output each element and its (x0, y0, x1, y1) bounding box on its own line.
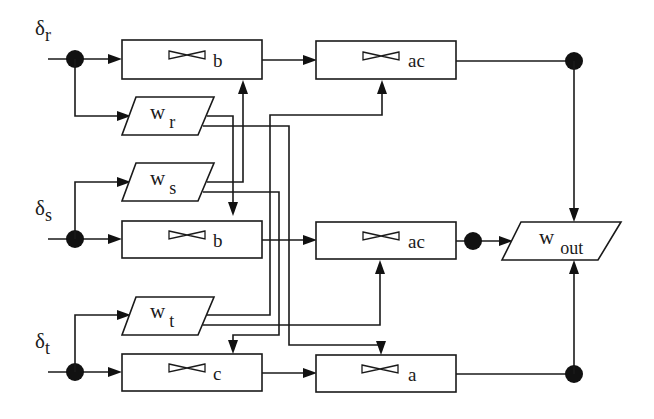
filter-box-row3-c (122, 354, 262, 391)
arrow-icon (375, 260, 385, 274)
arrow-icon (569, 208, 579, 222)
arrow-icon (238, 80, 248, 94)
input-label-s: δs (35, 196, 52, 225)
filter-box-row2-b (122, 221, 262, 258)
weight-box-ws (122, 163, 214, 201)
filter-label-row1-b: b (213, 50, 223, 71)
block-diagram: δr δs δt wr ws wt wout b ac b ac c a (0, 0, 654, 419)
arrow-icon (108, 54, 122, 64)
arrow-icon (569, 260, 579, 274)
arrow-icon (108, 367, 122, 377)
input-label-t: δt (35, 329, 50, 358)
filter-label-row1-ac: ac (408, 50, 425, 71)
filter-box-row3-a (316, 355, 456, 392)
filter-box-row1-b (122, 40, 262, 79)
filter-label-row3-c: c (213, 363, 221, 384)
arrow-icon (228, 340, 238, 354)
arrow-icon (377, 80, 387, 94)
filter-label-row2-b: b (213, 230, 223, 251)
filter-label-row3-a: a (408, 364, 417, 385)
arrow-icon (303, 55, 317, 65)
junction-node-mid (464, 232, 482, 250)
input-label-r: δr (35, 16, 51, 45)
labels: δr δs δt wr ws wt wout b ac b ac c a (35, 16, 583, 385)
filter-label-row2-ac: ac (408, 231, 425, 252)
arrow-icon (376, 341, 386, 355)
arrow-icon (303, 235, 317, 245)
row-s (48, 163, 513, 259)
arrow-icon (228, 202, 238, 216)
filter-box-row2-ac (316, 222, 456, 259)
arrow-icon (108, 234, 122, 244)
arrow-icon (303, 368, 317, 378)
weight-box-wr (122, 97, 214, 135)
weight-routing (203, 80, 387, 355)
row-t (48, 260, 583, 392)
filter-box-row1-ac (316, 41, 456, 79)
weight-box-wt (122, 297, 214, 335)
